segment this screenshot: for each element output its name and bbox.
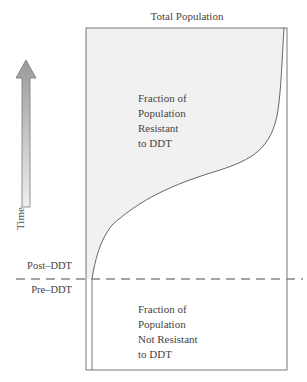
not-resistant-line-3: Not Resistant [138,332,198,347]
post-ddt-label: Post–DDT [0,260,72,271]
not-resistant-line-1: Fraction of [138,302,198,317]
resistant-line-2: Population [138,106,187,121]
not-resistant-line-2: Population [138,317,198,332]
resistant-line-4: to DDT [138,136,187,151]
pre-ddt-label: Pre–DDT [0,284,72,295]
not-resistant-label: Fraction of Population Not Resistant to … [138,302,198,362]
not-resistant-line-4: to DDT [138,347,198,362]
resistant-line-1: Fraction of [138,91,187,106]
time-arrow-icon [16,60,36,207]
resistant-region [86,28,284,279]
diagram-title: Total Population [86,10,288,22]
resistant-label: Fraction of Population Resistant to DDT [138,91,187,151]
time-axis-label: Time [14,200,26,230]
resistant-line-3: Resistant [138,121,187,136]
